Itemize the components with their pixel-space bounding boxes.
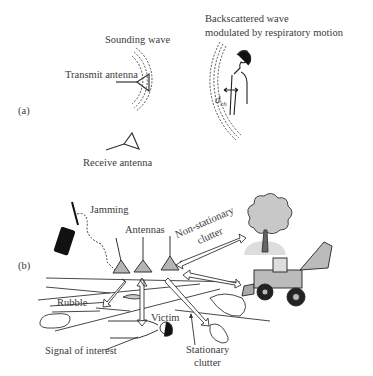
person-icon xyxy=(224,51,251,116)
receive-antenna-icon xyxy=(106,133,139,150)
jamming-label: Jamming xyxy=(90,205,129,216)
receive-antenna-label: Receive antenna xyxy=(83,158,152,169)
antennas-label: Antennas xyxy=(125,225,165,236)
panel-a-label: (a) xyxy=(18,106,30,117)
chest-subscript: ch xyxy=(220,100,227,108)
signal-of-interest-label: Signal of interest xyxy=(45,346,117,357)
rubble-label: Rubble xyxy=(57,298,87,309)
backscatter-label-line1: Backscattered wave xyxy=(205,14,289,25)
walkie-talkie-icon xyxy=(53,202,78,256)
transmit-antenna-label: Transmit antenna xyxy=(65,70,138,81)
backscatter-label-line2: modulated by respiratory motion xyxy=(205,28,343,39)
antenna-array-icon xyxy=(113,236,179,273)
victim-label: Victim xyxy=(151,313,180,324)
jamming-path xyxy=(77,214,115,270)
stationary-clutter-label-line1: Stationary xyxy=(186,345,229,356)
stationary-clutter-pointer xyxy=(191,314,195,345)
panel-b-label: (b) xyxy=(18,261,30,272)
stationary-clutter-label-line2: clutter xyxy=(194,358,221,369)
sounding-wave-label: Sounding wave xyxy=(105,35,170,46)
tree-icon xyxy=(244,193,292,255)
chest-displacement-label: dch xyxy=(215,95,227,108)
diagram-canvas xyxy=(0,0,373,376)
